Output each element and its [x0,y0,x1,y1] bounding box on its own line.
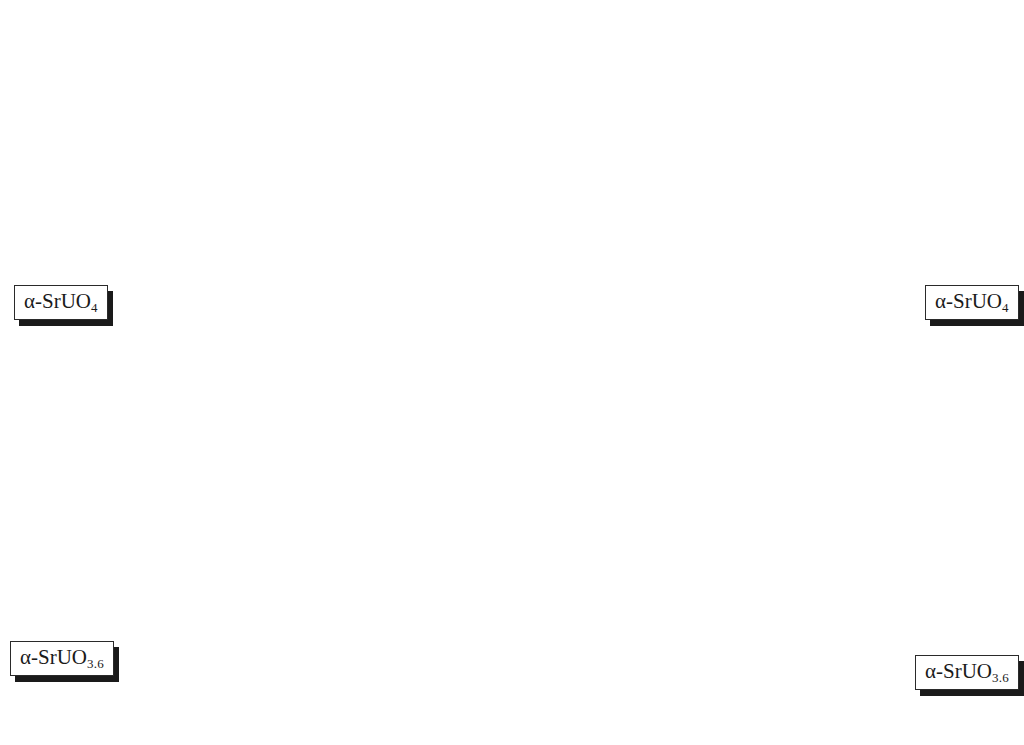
callout-left-bottom-base: α-SrUO [20,645,87,669]
callout-right-top-base: α-SrUO [935,289,1002,313]
callout-left-top-label: α-SrUO4 [14,285,108,320]
callout-right-bottom-base: α-SrUO [925,659,992,683]
callout-right-bottom: α-SrUO3.6 [915,655,1019,690]
callout-right-top-sub: 4 [1002,300,1009,315]
callout-left-bottom-label: α-SrUO3.6 [10,641,114,676]
callout-left-bottom: α-SrUO3.6 [10,641,114,676]
callout-right-bottom-sub: 3.6 [992,670,1009,685]
callout-right-top-label: α-SrUO4 [925,285,1019,320]
callout-left-bottom-sub: 3.6 [87,656,104,671]
callout-left-top: α-SrUO4 [14,285,108,320]
callout-right-bottom-label: α-SrUO3.6 [915,655,1019,690]
callout-left-top-sub: 4 [91,300,98,315]
callout-left-top-base: α-SrUO [24,289,91,313]
callout-right-top: α-SrUO4 [925,285,1019,320]
